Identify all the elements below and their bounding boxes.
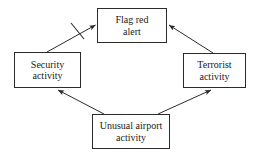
edge-unusual-airport-to-terrorist [158, 90, 211, 114]
node-unusual-airport-activity[interactable]: Unusual airport activity [92, 114, 170, 149]
node-terrorist-activity[interactable]: Terrorist activity [183, 53, 246, 88]
edge-line-unusual-airport-to-terrorist [158, 90, 211, 114]
edge-line-security-to-flag-red-alert [47, 25, 96, 52]
node-label-security-activity: Security activity [28, 59, 67, 82]
edge-unusual-airport-to-security [58, 90, 104, 114]
node-flag-red-alert[interactable]: Flag red alert [97, 8, 167, 43]
diagram-canvas: Flag red alert Security activity Terrori… [0, 0, 261, 153]
node-label-unusual-airport-activity: Unusual airport activity [97, 120, 166, 143]
edge-terrorist-to-flag-red-alert [169, 25, 213, 53]
edge-security-to-flag-red-alert [47, 23, 96, 52]
node-label-terrorist-activity: Terrorist activity [194, 59, 234, 82]
edge-line-unusual-airport-to-security [58, 90, 104, 114]
edge-line-terrorist-to-flag-red-alert [169, 25, 213, 53]
negation-slash-icon [71, 23, 84, 39]
node-security-activity[interactable]: Security activity [14, 52, 81, 88]
node-label-flag-red-alert: Flag red alert [112, 14, 151, 37]
